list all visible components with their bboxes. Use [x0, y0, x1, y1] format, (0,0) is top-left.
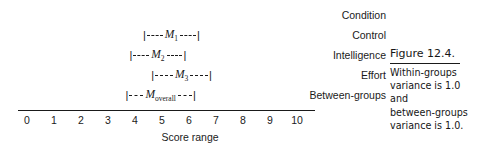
- interval-right-dashes: [180, 35, 196, 36]
- caption-line: variance is 1.0: [390, 79, 496, 92]
- mean-label-subscript: 2: [161, 54, 165, 63]
- interval-left-cap-icon: |: [126, 90, 129, 101]
- x-tick-label: 6: [177, 114, 201, 127]
- mean-label-subscript: overall: [155, 94, 176, 103]
- interval-left-dashes: [129, 95, 143, 96]
- interval-left-cap-icon: |: [130, 50, 133, 61]
- interval-marker: |M3|: [151, 69, 212, 82]
- x-tick-label: 3: [96, 114, 120, 127]
- interval-right-cap-icon: |: [197, 30, 200, 41]
- x-tick-label: 0: [15, 114, 39, 127]
- interval-right-cap-icon: |: [193, 90, 196, 101]
- condition-label: Between-groups: [280, 89, 386, 102]
- mean-label-subscript: 3: [184, 74, 188, 83]
- figure-12-4: |M1||M2||M3||Moverall| 012345678910 Scor…: [0, 0, 500, 153]
- plot-area: |M1||M2||M3||Moverall| 012345678910 Scor…: [0, 0, 320, 153]
- x-axis-line: [18, 110, 315, 111]
- condition-column-header: Condition: [280, 9, 386, 22]
- interval-marker: |M1|: [143, 29, 200, 42]
- condition-label: Control: [280, 29, 386, 42]
- interval-marker: |Moverall|: [126, 89, 196, 102]
- interval-left-cap-icon: |: [143, 30, 146, 41]
- mean-label: M3: [174, 69, 189, 82]
- interval-right-dashes: [167, 55, 183, 56]
- caption-line: variance is 1.0.: [390, 119, 496, 132]
- mean-label: M1: [164, 29, 179, 42]
- caption-body: Within-groupsvariance is 1.0andbetween-g…: [390, 66, 496, 132]
- x-tick-label: 7: [204, 114, 228, 127]
- condition-label: Effort: [280, 69, 386, 82]
- x-tick-label: 9: [258, 114, 282, 127]
- interval-left-dashes: [147, 35, 163, 36]
- caption-line: and: [390, 92, 496, 105]
- interval-left-dashes: [155, 75, 173, 76]
- caption-line: between-groups: [390, 106, 496, 119]
- interval-marker: |M2|: [130, 49, 187, 62]
- interval-right-cap-icon: |: [209, 70, 212, 81]
- x-axis-title: Score range: [130, 131, 250, 144]
- x-tick-label: 4: [123, 114, 147, 127]
- mean-label-subscript: 1: [174, 34, 178, 43]
- mean-label: Moverall: [144, 89, 176, 102]
- caption-rule: [390, 63, 460, 64]
- interval-right-dashes: [178, 95, 192, 96]
- interval-right-cap-icon: |: [183, 50, 186, 61]
- caption-line: Within-groups: [390, 66, 496, 79]
- condition-label: Intelligence: [280, 49, 386, 62]
- interval-right-dashes: [190, 75, 208, 76]
- x-tick-label: 1: [42, 114, 66, 127]
- interval-left-cap-icon: |: [151, 70, 154, 81]
- x-tick-label: 8: [231, 114, 255, 127]
- condition-column: Condition ControlIntelligenceEffortBetwe…: [280, 0, 386, 153]
- x-tick-label: 2: [69, 114, 93, 127]
- caption-title: Figure 12.4.: [390, 47, 496, 62]
- mean-label: M2: [150, 49, 165, 62]
- figure-caption: Figure 12.4. Within-groupsvariance is 1.…: [390, 47, 496, 132]
- x-tick-label: 5: [150, 114, 174, 127]
- interval-left-dashes: [133, 55, 149, 56]
